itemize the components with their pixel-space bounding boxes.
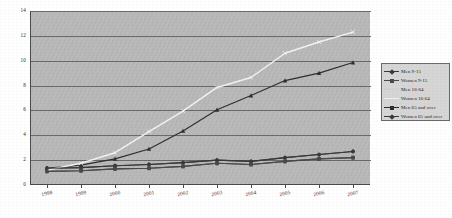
legend-item-label: Women 9-15 <box>401 78 427 83</box>
x-axis-tick-mark <box>81 185 82 188</box>
series-men-16-64 <box>45 60 355 170</box>
series-women-16-64 <box>45 30 355 172</box>
x-axis-tick-label: 1998 <box>32 188 62 199</box>
data-point-marker <box>147 163 151 167</box>
x-axis-tick-mark <box>149 185 150 188</box>
x-axis-tick-label: 1999 <box>66 188 96 199</box>
legend-key-icon <box>384 77 399 84</box>
x-axis-tick-mark <box>47 185 48 188</box>
data-point-marker <box>283 156 287 160</box>
data-point-marker <box>351 60 355 64</box>
legend-item-label: Women 65 and over <box>401 114 442 119</box>
legend-item-label: Women 16-64 <box>401 96 430 101</box>
x-axis-tick-label: 2007 <box>338 188 368 199</box>
chart-page: 02468101214 1998199920002001200220032004… <box>0 0 452 218</box>
series-women-65-and-over <box>45 155 355 173</box>
x-axis-tick-label: 2004 <box>236 188 266 199</box>
legend-item[interactable]: Women 16-64 <box>384 94 447 103</box>
legend-key-icon <box>384 95 399 102</box>
x-axis-tick-label: 2000 <box>100 188 130 199</box>
y-axis-tick-label: 8 <box>0 83 26 88</box>
x-axis-tick-label: 2006 <box>304 188 334 199</box>
data-point-marker <box>351 150 355 154</box>
data-point-marker <box>317 153 321 157</box>
y-axis-tick-label: 12 <box>0 33 26 38</box>
x-axis-tick-label: 2002 <box>168 188 198 199</box>
y-axis-tick-label: 0 <box>0 182 26 187</box>
x-axis-tick-mark <box>251 185 252 188</box>
series-line <box>47 32 353 170</box>
chart-legend: Men 9-15Women 9-15Men 16-64Women 16-64Me… <box>381 63 450 121</box>
x-axis-tick-mark <box>217 185 218 188</box>
y-axis-tick-label: 14 <box>0 8 26 13</box>
legend-item[interactable]: Women 9-15 <box>384 76 447 85</box>
data-point-marker <box>181 161 185 165</box>
legend-key-icon <box>384 113 399 120</box>
series-line <box>47 63 353 169</box>
x-axis-tick-mark <box>115 185 116 188</box>
chart-series-layer <box>30 11 370 185</box>
legend-item[interactable]: Men 9-15 <box>384 67 447 76</box>
x-axis-tick-mark <box>285 185 286 188</box>
x-axis-tick-mark <box>183 185 184 188</box>
x-axis-tick-mark <box>353 185 354 188</box>
y-axis-tick-label: 2 <box>0 157 26 162</box>
legend-item[interactable]: Men 65 and over <box>384 103 447 112</box>
y-axis-tick-label: 4 <box>0 132 26 137</box>
x-axis-tick-label: 2003 <box>202 188 232 199</box>
x-axis-tick-label: 2001 <box>134 188 164 199</box>
legend-item-label: Men 65 and over <box>401 105 436 110</box>
y-axis-tick-label: 10 <box>0 58 26 63</box>
data-point-marker <box>181 129 185 133</box>
legend-item[interactable]: Women 65 and over <box>384 112 447 121</box>
legend-key-icon <box>384 86 399 93</box>
x-axis-tick-mark <box>319 185 320 188</box>
y-axis-tick-label: 6 <box>0 107 26 112</box>
legend-key-icon <box>384 104 399 111</box>
legend-key-icon <box>384 68 399 75</box>
legend-item-label: Men 16-64 <box>401 87 424 92</box>
legend-item[interactable]: Men 16-64 <box>384 85 447 94</box>
legend-item-label: Men 9-15 <box>401 69 421 74</box>
x-axis-tick-label: 2005 <box>270 188 300 199</box>
